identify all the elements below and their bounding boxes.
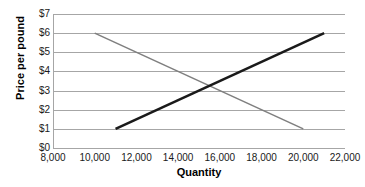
- y-tick: $1: [22, 123, 50, 135]
- y-tick: $5: [22, 46, 50, 58]
- y-tick-label: $3: [24, 85, 50, 96]
- y-tick-label: $1: [24, 123, 50, 134]
- y-tick-label: $2: [24, 104, 50, 115]
- plot-area: [53, 14, 345, 148]
- y-tick: $2: [22, 104, 50, 116]
- x-tick-label: 14,000: [155, 152, 201, 163]
- series-line-supply: [116, 33, 325, 129]
- y-tick-label: $4: [24, 65, 50, 76]
- y-tick: $7: [22, 8, 50, 20]
- y-tick: $3: [22, 85, 50, 97]
- x-tick-label: 16,000: [197, 152, 243, 163]
- x-axis-title: Quantity: [53, 166, 345, 178]
- x-tick-label: 20,000: [280, 152, 326, 163]
- y-tick-label: $5: [24, 46, 50, 57]
- gridline: [53, 148, 345, 149]
- y-tick-label: $6: [24, 27, 50, 38]
- y-tick-label: $7: [24, 8, 50, 19]
- series-line-demand: [95, 33, 304, 129]
- x-tick-label: 8,000: [30, 152, 76, 163]
- x-tick-label: 18,000: [239, 152, 285, 163]
- x-tick-label: 22,000: [322, 152, 365, 163]
- x-tick-label: 12,000: [113, 152, 159, 163]
- y-tick: $6: [22, 27, 50, 39]
- series-lines: [53, 14, 345, 148]
- y-tick: $4: [22, 65, 50, 77]
- x-tick-label: 10,000: [72, 152, 118, 163]
